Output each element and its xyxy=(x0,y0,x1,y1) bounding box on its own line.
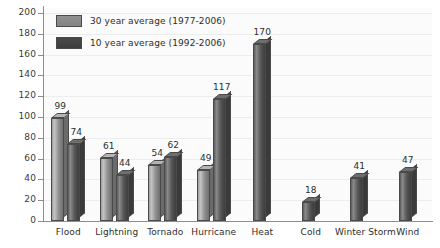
bar-side-face xyxy=(129,167,134,217)
y-axis-tick-label: 80 xyxy=(24,132,36,142)
y-axis-tick-label: 100 xyxy=(19,111,36,121)
bar-value-label: 74 xyxy=(63,127,89,137)
bar[interactable] xyxy=(399,172,412,221)
x-axis-category-label: Lightning xyxy=(93,227,142,237)
bar-value-label: 41 xyxy=(346,161,372,171)
bar-chart: 200180160140120100806040200 997461445462… xyxy=(0,0,440,248)
y-axis-tick xyxy=(38,117,43,118)
y-axis-tick xyxy=(38,200,43,201)
bar-front-face xyxy=(253,44,266,221)
bar-front-face xyxy=(350,178,363,221)
x-axis-category-label: Heat xyxy=(238,227,287,237)
bar-side-face xyxy=(80,136,85,217)
y-axis-tick-label: 40 xyxy=(24,173,36,183)
bar-value-label: 62 xyxy=(160,140,186,150)
x-axis-category-label: Hurricane xyxy=(190,227,239,237)
gridline xyxy=(44,75,432,76)
gridline xyxy=(44,117,432,118)
gridline xyxy=(44,138,432,139)
gridline xyxy=(44,96,432,97)
bar-side-face xyxy=(177,149,182,217)
bar-side-face xyxy=(363,170,368,217)
bar-value-label: 18 xyxy=(298,185,324,195)
y-axis: 200180160140120100806040200 xyxy=(0,0,36,248)
bar-front-face xyxy=(148,165,161,221)
bar-front-face xyxy=(213,99,226,221)
bar-front-face xyxy=(67,144,80,221)
y-axis-tick xyxy=(38,13,43,14)
y-axis-tick xyxy=(38,159,43,160)
legend: 30 year average (1977-2006)10 year avera… xyxy=(56,13,226,57)
legend-label: 30 year average (1977-2006) xyxy=(90,16,226,26)
bar-value-label: 61 xyxy=(96,141,122,151)
x-axis-category-label: Tornado xyxy=(141,227,190,237)
x-axis-category-label: Winter Storm xyxy=(335,227,384,237)
y-axis-tick xyxy=(38,138,43,139)
bar[interactable] xyxy=(302,202,315,221)
bar[interactable] xyxy=(197,170,210,221)
bar-front-face xyxy=(197,170,210,221)
bar-front-face xyxy=(164,157,177,221)
bar[interactable] xyxy=(213,99,226,221)
bar-value-label: 170 xyxy=(249,27,275,37)
bar-value-label: 99 xyxy=(47,101,73,111)
bar-side-face xyxy=(412,164,417,217)
bar[interactable] xyxy=(148,165,161,221)
y-axis-tick xyxy=(38,75,43,76)
legend-swatch xyxy=(56,15,82,27)
legend-label: 10 year average (1992-2006) xyxy=(90,38,226,48)
bar-value-label: 117 xyxy=(209,82,235,92)
y-axis-tick xyxy=(38,34,43,35)
bar-front-face xyxy=(302,202,315,221)
y-axis-tick-label: 0 xyxy=(30,215,36,225)
bar[interactable] xyxy=(253,44,266,221)
legend-swatch xyxy=(56,37,82,49)
y-axis-tick-label: 20 xyxy=(24,194,36,204)
y-axis-line xyxy=(43,6,44,222)
legend-item[interactable]: 30 year average (1977-2006) xyxy=(56,13,226,29)
bar-front-face xyxy=(116,175,129,221)
bar[interactable] xyxy=(116,175,129,221)
y-axis-tick xyxy=(38,55,43,56)
y-axis-tick xyxy=(38,221,43,222)
bar[interactable] xyxy=(350,178,363,221)
y-axis-tick-label: 160 xyxy=(19,49,36,59)
y-axis-tick-label: 60 xyxy=(24,153,36,163)
y-axis-tick-label: 140 xyxy=(19,69,36,79)
y-axis-tick-label: 200 xyxy=(19,7,36,17)
x-axis-category-label: Wind xyxy=(384,227,433,237)
y-axis-tick xyxy=(38,179,43,180)
bar-value-label: 47 xyxy=(395,155,421,165)
y-axis-tick-label: 120 xyxy=(19,90,36,100)
x-axis-category-label: Flood xyxy=(44,227,93,237)
bar-front-face xyxy=(399,172,412,221)
x-axis-line xyxy=(43,221,433,222)
y-axis-tick-label: 180 xyxy=(19,28,36,38)
bar-side-face xyxy=(226,91,231,217)
x-axis-category-label: Cold xyxy=(287,227,336,237)
bar[interactable] xyxy=(164,157,177,221)
legend-item[interactable]: 10 year average (1992-2006) xyxy=(56,35,226,51)
y-axis-tick xyxy=(38,96,43,97)
bar-value-label: 44 xyxy=(112,158,138,168)
bar[interactable] xyxy=(67,144,80,221)
bar-side-face xyxy=(266,36,271,217)
